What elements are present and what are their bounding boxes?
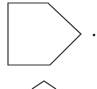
chevron-shape [32,81,56,89]
pentagon-arrow-shape [8,3,81,65]
diagram-canvas [0,0,97,89]
dot-marker [93,34,96,37]
